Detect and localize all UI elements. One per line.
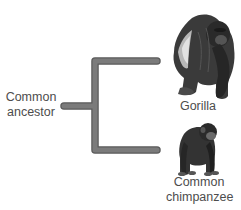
branch-fill — [64, 61, 157, 150]
gorilla-label-line-1: Gorilla — [175, 99, 221, 114]
phylogenetic-tree-diagram: Common ancestor Gorilla — [0, 0, 241, 210]
common-chimpanzee-label: Common chimpanzee — [166, 175, 232, 205]
common-chimpanzee-label-line-2: chimpanzee — [166, 190, 232, 205]
gorilla-illustration — [162, 12, 240, 102]
common-ancestor-label-line-1: Common — [3, 90, 59, 105]
common-chimpanzee-label-line-1: Common — [166, 175, 232, 190]
common-ancestor-label-line-2: ancestor — [3, 105, 59, 120]
common-ancestor-label: Common ancestor — [3, 90, 59, 120]
gorilla-label: Gorilla — [175, 99, 221, 114]
chimpanzee-illustration — [170, 118, 224, 178]
